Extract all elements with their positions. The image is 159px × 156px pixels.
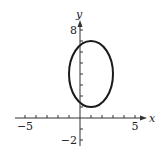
x-tick-label-min: −5 bbox=[17, 120, 33, 133]
y-axis-label: y bbox=[75, 8, 83, 21]
x-tick-label-max: 5 bbox=[132, 120, 139, 133]
y-tick-label-max: 8 bbox=[70, 24, 77, 37]
coordinate-plot: x y −5 5 8 −2 bbox=[0, 0, 159, 156]
x-axis-label: x bbox=[149, 112, 156, 125]
ellipse-curve bbox=[69, 41, 113, 107]
y-tick-label-min: −2 bbox=[61, 134, 77, 147]
y-axis-arrow-icon bbox=[78, 20, 83, 27]
x-axis-arrow-icon bbox=[140, 116, 147, 121]
